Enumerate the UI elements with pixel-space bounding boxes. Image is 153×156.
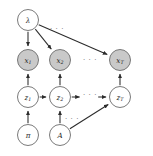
node-z1[interactable]: z1 [18,87,39,108]
ellipsis-dots-z-row: · · · [83,91,97,99]
edges-layer [28,25,120,129]
ellipsis-dots-x-row: · · · [83,56,97,64]
nodes-layer: λx1x2xTz1z2zTπA [18,10,131,146]
ellipsis-dots-top: · · · [50,25,64,33]
node-xT[interactable]: xT [110,50,131,71]
node-pi[interactable]: π [18,125,39,146]
node-label-A: A [56,131,62,140]
edge-lambda-x2 [35,29,51,49]
node-lambda[interactable]: λ [18,10,39,31]
node-x1[interactable]: x1 [18,50,39,71]
node-A[interactable]: A [50,125,71,146]
node-zT[interactable]: zT [110,87,131,108]
diagram-canvas: λx1x2xTz1z2zTπA · · ·· · ·· · ·· · · [0,0,153,156]
ellipsis-dots-bottom: · · · [65,115,79,123]
node-label-pi: π [25,131,31,140]
node-x2[interactable]: x2 [50,50,71,71]
graphical-model-svg: λx1x2xTz1z2zTπA · · ·· · ·· · ·· · · [0,0,153,156]
node-z2[interactable]: z2 [50,87,71,108]
node-label-lambda: λ [25,16,31,25]
